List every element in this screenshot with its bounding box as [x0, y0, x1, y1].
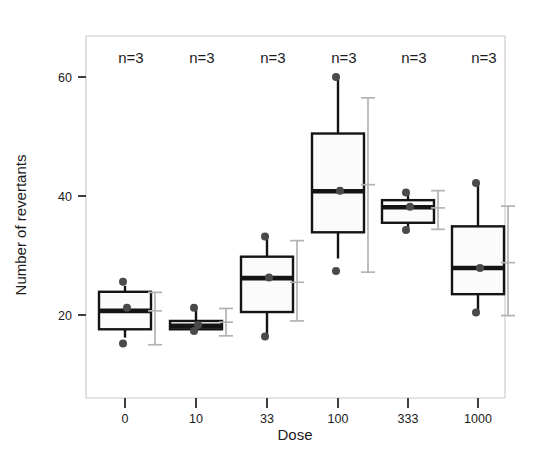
sample-size-annotation: n=3 [471, 49, 496, 66]
data-point [261, 232, 269, 240]
sample-size-annotation: n=3 [189, 49, 214, 66]
data-point [472, 179, 480, 187]
boxplot-chart: 204060 010331003331000 n=3n=3n=3n=3n=3n=… [0, 0, 546, 469]
x-axis-title: Dose [277, 426, 312, 443]
data-point [190, 304, 198, 312]
data-point [476, 264, 484, 272]
x-tick-label: 1000 [464, 412, 492, 426]
data-point [402, 188, 410, 196]
boxplot-group [312, 73, 375, 275]
data-point [472, 309, 480, 317]
boxplot-group [382, 188, 445, 233]
data-point [332, 73, 340, 81]
data-point [336, 187, 344, 195]
data-point [406, 203, 414, 211]
data-point [402, 226, 410, 234]
data-point [123, 304, 131, 312]
boxplot-group [99, 278, 162, 348]
data-point [261, 332, 269, 340]
y-axis: 204060 [58, 71, 86, 323]
sample-size-annotation: n=3 [401, 49, 426, 66]
x-axis: 010331003331000 [122, 398, 492, 426]
data-point [119, 340, 127, 348]
x-tick-label: 0 [122, 412, 129, 426]
boxplot-group [170, 304, 233, 336]
box-body [452, 226, 504, 294]
y-tick-label: 60 [58, 71, 72, 85]
y-tick-label: 20 [58, 309, 72, 323]
plot-canvas: 204060 010331003331000 n=3n=3n=3n=3n=3n=… [0, 0, 546, 469]
data-point [265, 274, 273, 282]
box-body [312, 134, 364, 233]
data-point [119, 278, 127, 286]
sample-size-annotation: n=3 [331, 49, 356, 66]
data-point [332, 267, 340, 275]
boxplot-group [241, 232, 304, 340]
x-tick-label: 100 [328, 412, 349, 426]
y-axis-title: Number of revertants [12, 155, 29, 296]
x-tick-label: 10 [189, 412, 203, 426]
annotation-group: n=3n=3n=3n=3n=3n=3 [118, 49, 496, 66]
data-point [190, 327, 198, 335]
sample-size-annotation: n=3 [260, 49, 285, 66]
sample-size-annotation: n=3 [118, 49, 143, 66]
x-tick-label: 333 [398, 412, 419, 426]
box-series-group [99, 73, 515, 348]
x-tick-label: 33 [260, 412, 274, 426]
plot-frame [86, 36, 505, 398]
box-body [241, 257, 293, 312]
y-tick-label: 40 [58, 190, 72, 204]
